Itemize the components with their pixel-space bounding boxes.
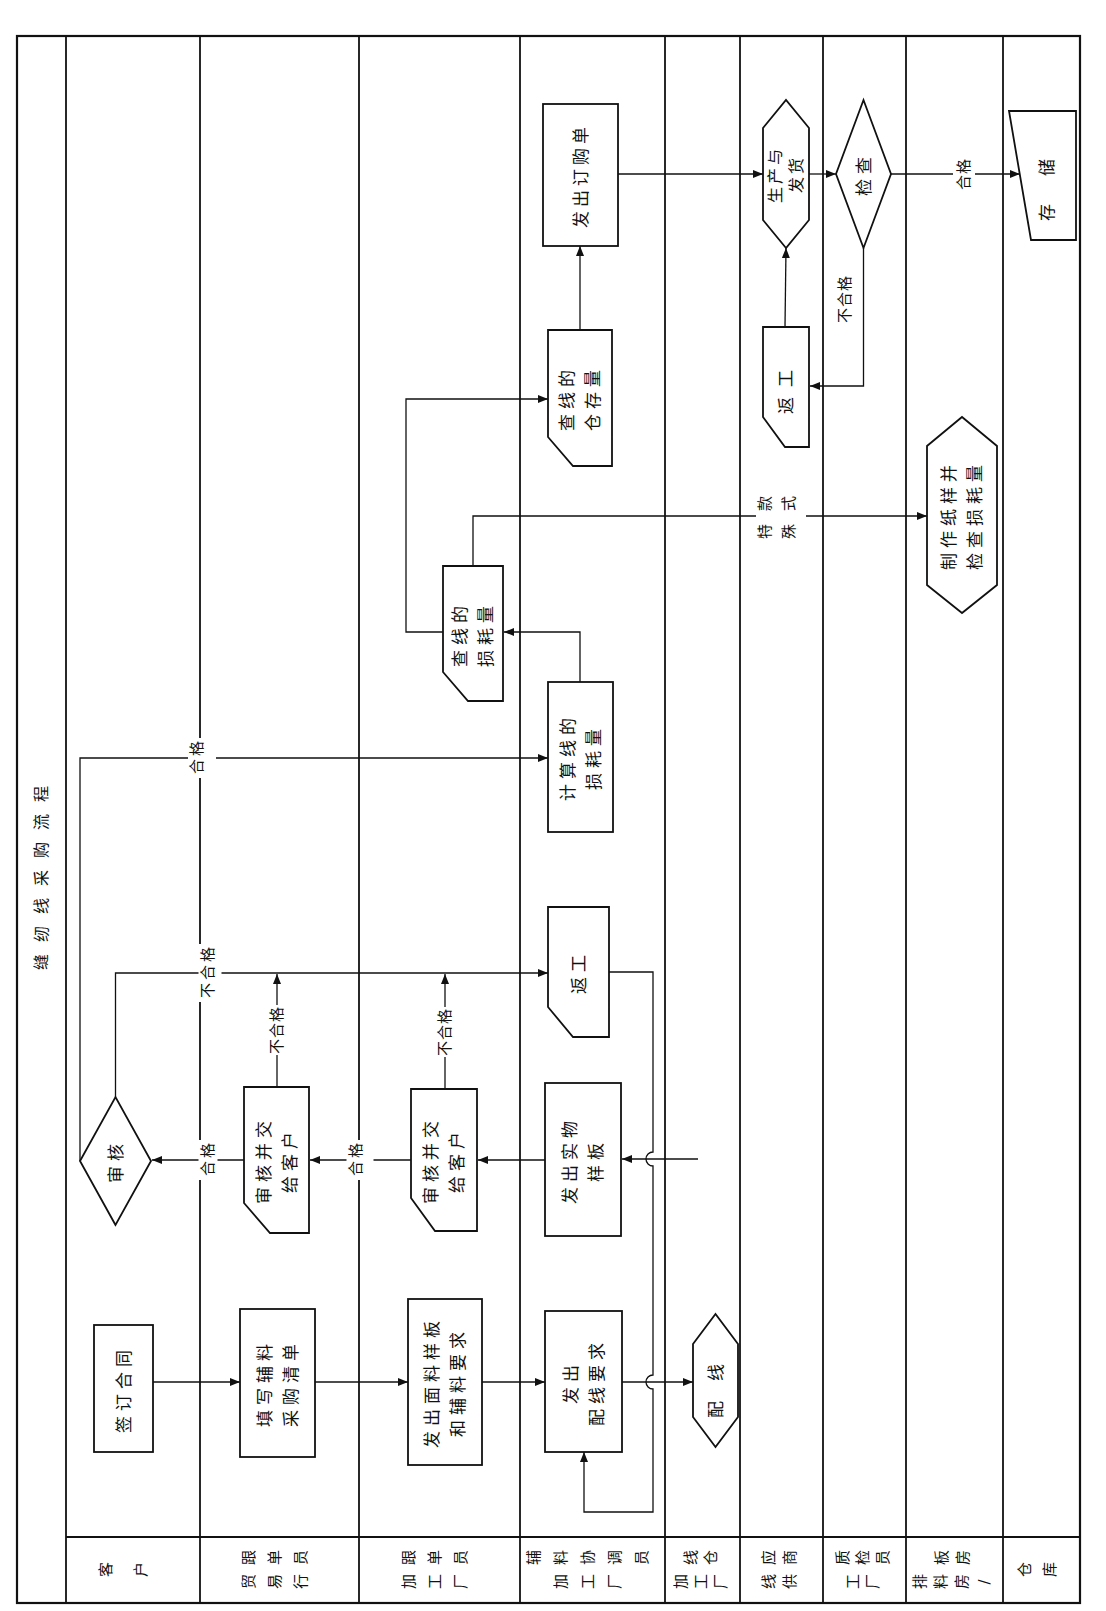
node-label: 发货 [786,155,807,193]
edge-label-char: 格 [200,946,221,964]
lane-label-customer: 客户 [66,1537,200,1603]
node-label: 配线要求 [584,1338,610,1426]
node-label: 采购清单 [278,1339,304,1427]
edge-label-pass: 合格 [953,157,975,191]
node-label: 和辅料要求 [445,1327,471,1437]
node-label: 填写辅料 [252,1339,278,1427]
lane-label-text: 质检员 [835,1546,895,1570]
lane-label-text: 贸易行 [241,1570,319,1594]
edge-label-line: 特殊 [757,518,805,546]
swimlane-flowchart: 缝纫线采购流程 客户 贸易行 跟单员 加工厂 跟单员 加工厂 辅料协调员 加工厂… [0,0,1106,1611]
edge-label-fail: 不合格 [834,274,856,324]
lane-label-warehouse: 仓库 [1003,1537,1080,1603]
connector-fail-to-rework [116,973,549,1097]
lane-label-text: 辅料协调员 [525,1546,660,1570]
lane-label-text: 线供 [761,1570,803,1594]
node-issue-physical-sample: 发出实物 样板 [545,1083,621,1236]
node-rework-coordinator: 返工 [548,907,609,1037]
lane-label-thread-supplier: 线供 应商 [740,1537,823,1603]
lane-label-text: 跟单员 [241,1546,319,1570]
lane-label-factory-qc: 工厂 质检员 [823,1537,906,1603]
lane-label-text: 工厂 [835,1570,895,1594]
lane-label-text: 仓库 [1017,1558,1067,1582]
node-factory-review-submit: 审核并交 给客户 [411,1089,477,1231]
node-sign-contract: 签订合同 [94,1325,153,1452]
node-thread-matching: 配线 [693,1314,738,1447]
lane-label-accessory-coordinator: 加工厂 辅料协调员 [520,1537,665,1603]
node-label: 损耗量 [581,724,607,790]
lane-label-text: 加工厂 [673,1570,733,1594]
node-calc-thread-loss: 计算线的 损耗量 [548,682,613,832]
node-inspect: 检查 [836,100,891,248]
node-trade-review-submit: 审核并交 给客户 [244,1087,309,1233]
edge-label-char: 不 [200,982,221,1000]
lane-label-text: 应商 [761,1546,803,1570]
connector-rework-to-produce [785,248,786,327]
node-make-paper-pattern: 制作纸样并 检查损耗量 [927,417,997,613]
node-label: 发出实物 [557,1116,583,1204]
node-fill-purchase-list: 填写辅料 采购清单 [240,1309,315,1457]
edge-label-pass: 合格 [347,1140,374,1180]
edge-label-pass: 合格 [188,738,216,778]
node-label: 检查 [851,152,877,196]
lane-label-thread-warehouse: 加工厂 线仓 [665,1537,740,1603]
edge-label-char: 格 [348,1142,373,1160]
node-label: 审核并交 [418,1116,444,1204]
node-label: 返工 [566,950,592,994]
node-label: 发出面料样板 [419,1316,445,1448]
edge-label-char: 格 [200,1142,217,1160]
node-label: 查线的 [554,365,580,431]
lane-label-text: 排料房/ [911,1570,998,1594]
node-label: 审核 [103,1139,129,1183]
node-label: 仓存量 [580,365,606,431]
node-rework-supplier: 返工 [763,327,809,447]
edge-label-fail: 不合格 [266,1005,288,1055]
node-label: 损耗量 [473,601,499,667]
node-issue-purchase-order: 发出订购单 [543,104,618,246]
node-check-thread-loss: 查线的 损耗量 [443,566,503,701]
lane-label-text: 跟单员 [401,1546,479,1570]
node-label: 生产与 [765,146,786,203]
edge-label-pass: 合格 [199,1140,218,1180]
node-label: 审核并交 [251,1116,277,1204]
node-label: 返工 [773,360,799,414]
connector-calc-to-check-loss [504,632,580,682]
diagram-title: 缝纫线采购流程 [17,772,66,972]
lane-label-text: 加工厂 [401,1570,479,1594]
node-review-decision: 审核 [80,1097,151,1225]
node-label: 制作纸样并 [936,460,962,570]
node-label: 签订合同 [111,1345,137,1433]
node-label: 给客户 [277,1127,303,1193]
lane-label-text: 加工厂 [525,1570,660,1594]
node-label: 配线 [703,1344,729,1418]
edge-label-fail: 不合格 [434,1007,456,1057]
node-check-thread-stock: 查线的 仓存量 [548,330,612,466]
node-label: 计算线的 [555,713,581,801]
node-issue-fabric-sample: 发出面料样板 和辅料要求 [408,1299,482,1465]
edge-label-char: 合 [200,1160,217,1178]
edge-label-char: 合 [189,758,215,776]
edge-label-line: 款式 [757,490,805,518]
node-label: 存储 [1034,131,1060,221]
node-label: 发出订购单 [568,123,594,228]
node-store: 存储 [1018,111,1076,240]
node-label: 样板 [583,1138,609,1182]
lane-label-factory-merchandiser: 加工厂 跟单员 [359,1537,520,1603]
edge-label-char: 格 [189,740,215,758]
edge-label-char: 合 [348,1160,373,1178]
connector-special-style [473,516,927,566]
edge-label-fail: 不合格 [199,944,222,1002]
lane-label-trade-merchandiser: 贸易行 跟单员 [200,1537,359,1603]
edge-label-special-style: 特殊 款式 [756,488,806,548]
node-label: 给客户 [444,1127,470,1193]
node-label: 检查损耗量 [962,460,988,570]
node-label: 查线的 [447,601,473,667]
edge-label-char: 合 [200,964,221,982]
lane-label-pattern-room: 排料房/ 板房 [906,1537,1003,1603]
node-produce-ship: 生产与 发货 [763,100,809,248]
lane-label-text: 客户 [98,1558,168,1582]
node-issue-thread-request: 发出 配线要求 [545,1311,622,1452]
lane-label-text: 板房 [911,1546,998,1570]
lane-label-text: 线仓 [673,1546,733,1570]
node-label: 发出 [558,1360,584,1404]
